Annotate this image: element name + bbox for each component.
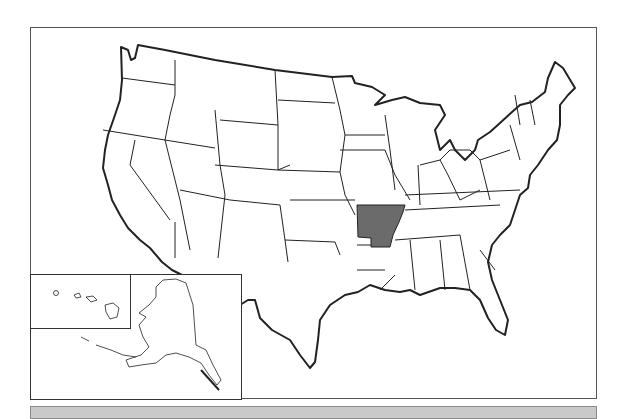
hawaii-inset [30, 274, 131, 329]
hawaii-shape [31, 275, 132, 330]
bottom-bar [30, 406, 597, 419]
arkansas-state-highlighted [357, 205, 405, 247]
